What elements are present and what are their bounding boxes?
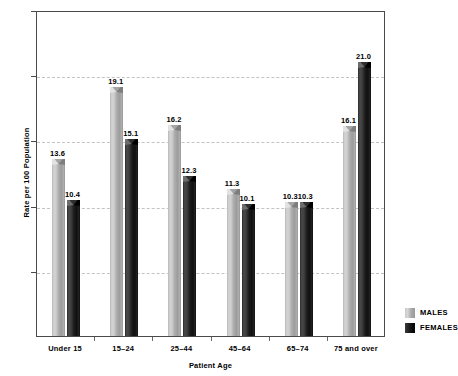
bar-females [242,204,255,336]
gridline [37,208,384,209]
x-tick-mark [94,337,95,341]
bar-value-label: 11.3 [215,179,249,188]
x-tick-mark [269,337,270,341]
bar-body [125,144,138,336]
bar-value-label: 15.1 [114,129,148,138]
legend-swatch-males-icon [405,308,415,318]
bar-value-label: 19.1 [99,77,133,86]
x-axis-title: Patient Age [36,361,385,370]
bar-females [300,202,313,336]
bar-cap [285,202,298,208]
bar-value-label: 12.3 [172,166,206,175]
bar-body [67,205,80,336]
bar-cap [125,139,138,145]
bar-cap [358,62,371,68]
bar-value-label: 10.1 [230,194,264,203]
bar-females [67,200,80,336]
bar-females [358,62,371,336]
bar-cap [242,204,255,210]
bar-value-label: 16.1 [331,116,365,125]
bar-males [227,189,240,336]
gridline [37,273,384,274]
bar-males [168,125,181,336]
bar-value-label: 21.0 [346,52,380,61]
bar-males [343,126,356,336]
bar-value-label: 13.6 [41,149,75,158]
bar-females [183,176,196,336]
bar-body [343,131,356,336]
bar-males [52,159,65,336]
bar-body [242,209,255,336]
legend-item-males: MALES [405,305,458,320]
x-tick-mark [211,337,212,341]
legend-swatch-females-icon [405,323,415,333]
plot-area [36,11,385,337]
bar-cap [183,176,196,182]
gridline [37,142,384,143]
bar-cap [110,87,123,93]
bar-cap [67,200,80,206]
legend-item-females: FEMALES [405,320,458,335]
bar-body [183,181,196,336]
y-axis-title: Rate per 100 Population [22,93,31,253]
x-tick-mark [152,337,153,341]
x-tick-mark [327,337,328,341]
bar-body [227,194,240,336]
bar-cap [52,159,65,165]
bar-females [125,139,138,336]
bar-cap [168,125,181,131]
bar-value-label: 10.3 [288,192,322,201]
chart-legend: MALES FEMALES [405,305,458,335]
bar-body [168,130,181,336]
bar-value-label: 16.2 [157,115,191,124]
x-tick-label: 75 and over [316,344,396,353]
bar-body [358,67,371,336]
gridline [37,77,384,78]
bar-males [285,202,298,336]
bar-value-label: 10.4 [56,190,90,199]
bar-males [110,87,123,336]
bar-body [300,207,313,336]
legend-label-females: FEMALES [420,323,458,332]
bar-chart: Rate per 100 Population 510152025 Under … [0,0,458,376]
bar-cap [300,202,313,208]
legend-label-males: MALES [420,308,448,317]
bar-cap [343,126,356,132]
bar-body [285,207,298,336]
